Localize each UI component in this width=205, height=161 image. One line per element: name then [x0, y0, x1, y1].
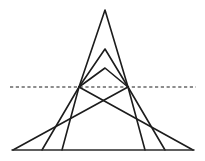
lower-ray-right-middle: [128, 87, 165, 150]
lower-ray-right-outer: [79, 87, 193, 150]
lower-ray-left-middle: [42, 87, 79, 150]
lower-ray-left-inner: [62, 87, 79, 150]
ray-diagram: [0, 0, 205, 161]
upper-triangles-group: [79, 10, 128, 87]
figure-canvas: [0, 0, 205, 161]
lower-rays-group: [13, 87, 193, 150]
